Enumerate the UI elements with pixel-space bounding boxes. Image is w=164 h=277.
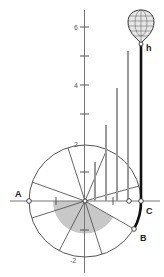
y-label-2: 2 [74,141,78,148]
y-label-4: 4 [74,82,78,89]
balloon-icon [128,10,154,43]
point-h [139,42,143,46]
shaded-sector [53,201,113,234]
point-inner [127,199,132,204]
vertical-bars [95,51,128,201]
y-label-6: 6 [74,24,78,31]
point-center [83,199,87,203]
label-a: A [15,189,22,199]
point-c [139,199,144,204]
label-h: h [146,43,152,53]
label-b: B [140,233,147,243]
point-b [132,227,137,232]
label-c: C [146,206,153,216]
diagram-figure: 6 4 2 -2 A C B h [0,0,164,277]
point-a [27,199,32,204]
y-label-neg2: -2 [70,257,76,264]
